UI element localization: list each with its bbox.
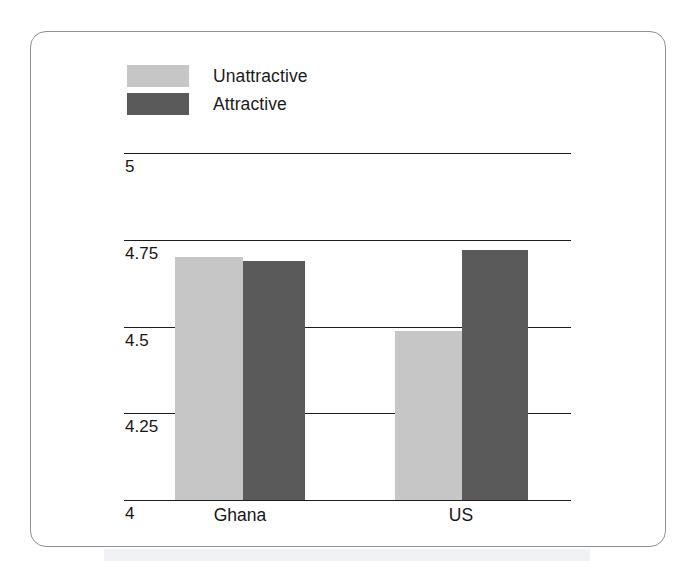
bar-ghana-attractive (243, 261, 305, 500)
bar-ghana-unattractive (175, 257, 243, 500)
xtick-label-ghana: Ghana (170, 505, 310, 526)
xtick-label-us: US (391, 505, 531, 526)
plot-area: 5 4.75 4.5 4.25 4 Ghana US (124, 153, 571, 500)
chart-legend: Unattractive Attractive (127, 62, 427, 118)
legend-label-unattractive: Unattractive (213, 66, 308, 87)
ytick-label-4-75: 4.75 (125, 245, 158, 262)
ytick-label-4: 4 (125, 505, 134, 522)
legend-item-unattractive: Unattractive (127, 62, 427, 90)
legend-item-attractive: Attractive (127, 90, 427, 118)
ytick-label-4-5: 4.5 (125, 332, 149, 349)
bar-us-attractive (462, 250, 528, 500)
gridline-5 (124, 153, 571, 154)
ytick-label-5: 5 (125, 158, 134, 175)
legend-swatch-unattractive (127, 65, 189, 87)
gridline-4-75 (124, 240, 571, 241)
axis-baseline-4 (124, 500, 571, 501)
legend-swatch-attractive (127, 93, 189, 115)
ytick-label-4-25: 4.25 (125, 418, 158, 435)
page-edge-band (104, 549, 590, 561)
legend-label-attractive: Attractive (213, 94, 287, 115)
bar-us-unattractive (395, 331, 462, 500)
figure-root: Unattractive Attractive 5 4.75 4.5 4.25 … (0, 0, 690, 568)
